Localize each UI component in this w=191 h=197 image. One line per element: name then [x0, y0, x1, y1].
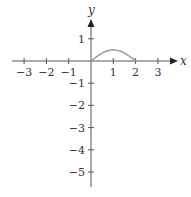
y-axis-label: y [87, 3, 95, 17]
axes [12, 19, 178, 187]
y-tick-label: −2 [69, 99, 85, 112]
x-axis-label: x [180, 54, 187, 68]
y-tick-label: −3 [69, 122, 85, 135]
y-axis-arrow-icon [88, 19, 95, 27]
x-tick-label: 1 [110, 66, 117, 79]
y-tick-label: 1 [78, 33, 85, 46]
x-tick-label: −3 [16, 66, 32, 79]
y-tick-label: −4 [69, 144, 85, 157]
x-tick-label: 2 [132, 66, 139, 79]
x-axis-arrow-icon [170, 58, 178, 65]
x-tick-label: 3 [154, 66, 161, 79]
chart: −3−2−11231−1−2−3−4−5 x y [0, 0, 191, 197]
x-tick-label: −2 [38, 66, 54, 79]
y-tick-label: −5 [69, 166, 85, 179]
y-tick-label: −1 [69, 77, 85, 90]
